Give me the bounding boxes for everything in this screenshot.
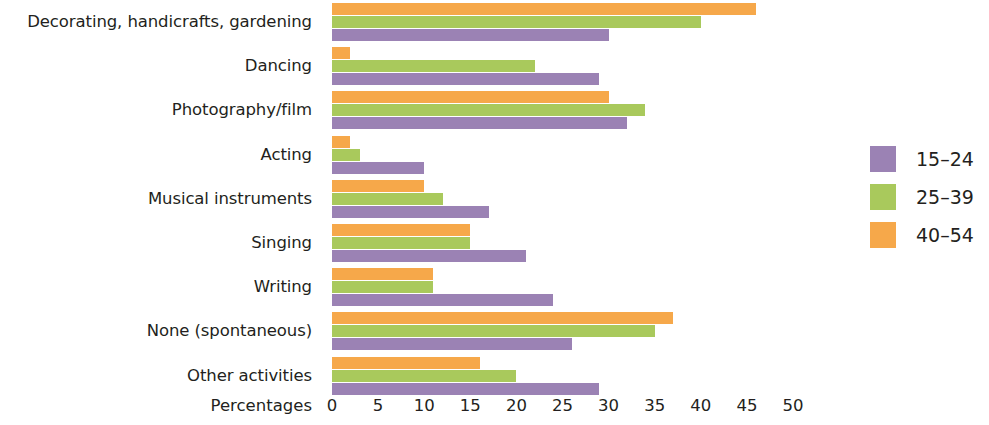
bar: [332, 325, 655, 337]
bar-group: [332, 3, 812, 43]
axis-tick-label: 0: [327, 396, 338, 416]
legend: 15–2425–3940–54: [870, 140, 974, 254]
bar: [332, 268, 433, 280]
axis-tick-label: 15: [460, 396, 481, 416]
bar-group: [332, 224, 812, 264]
plot-area: [332, 0, 812, 392]
category-label: Musical instruments: [0, 189, 312, 208]
axis-tick-label: 10: [414, 396, 435, 416]
legend-swatch-icon: [870, 184, 896, 210]
bar: [332, 104, 645, 116]
bar: [332, 370, 516, 382]
bar: [332, 281, 433, 293]
bar-group: [332, 312, 812, 352]
legend-label: 40–54: [916, 224, 974, 246]
axis-tick-label: 40: [690, 396, 711, 416]
axis-tick-label: 5: [373, 396, 384, 416]
category-label: Dancing: [0, 56, 312, 75]
grouped-bar-chart: Decorating, handicrafts, gardeningDancin…: [0, 0, 989, 425]
axis-tick-label: 50: [783, 396, 804, 416]
bar: [332, 383, 599, 395]
bar: [332, 312, 673, 324]
legend-label: 25–39: [916, 186, 974, 208]
category-label: Photography/film: [0, 100, 312, 119]
bar: [332, 250, 526, 262]
category-label: Decorating, handicrafts, gardening: [0, 12, 312, 31]
category-label: Acting: [0, 145, 312, 164]
category-label: Writing: [0, 277, 312, 296]
legend-item: 15–24: [870, 140, 974, 178]
bar-group: [332, 268, 812, 308]
bar-group: [332, 91, 812, 131]
bar: [332, 91, 609, 103]
bar: [332, 16, 701, 28]
bar: [332, 206, 489, 218]
bar-group: [332, 47, 812, 87]
value-axis: 05101520253035404550: [332, 396, 812, 420]
bar: [332, 149, 360, 161]
axis-tick-label: 35: [644, 396, 665, 416]
bar: [332, 60, 535, 72]
legend-label: 15–24: [916, 148, 974, 170]
bar: [332, 224, 470, 236]
bar: [332, 180, 424, 192]
axis-tick-label: 25: [552, 396, 573, 416]
axis-tick-label: 30: [598, 396, 619, 416]
bar-group: [332, 180, 812, 220]
category-label: None (spontaneous): [0, 321, 312, 340]
bar: [332, 193, 443, 205]
axis-title: Percentages: [0, 396, 312, 416]
category-label: Other activities: [0, 366, 312, 385]
bar: [332, 29, 609, 41]
bar: [332, 237, 470, 249]
bar: [332, 3, 756, 15]
bar: [332, 162, 424, 174]
bar: [332, 338, 572, 350]
bar-group: [332, 136, 812, 176]
bar-group: [332, 357, 812, 397]
legend-swatch-icon: [870, 146, 896, 172]
bar: [332, 357, 480, 369]
bar: [332, 136, 350, 148]
bar: [332, 294, 553, 306]
bar: [332, 117, 627, 129]
legend-item: 40–54: [870, 216, 974, 254]
axis-tick-label: 45: [736, 396, 757, 416]
category-label: Singing: [0, 233, 312, 252]
bar: [332, 47, 350, 59]
legend-swatch-icon: [870, 222, 896, 248]
axis-tick-label: 20: [506, 396, 527, 416]
bar: [332, 73, 599, 85]
legend-item: 25–39: [870, 178, 974, 216]
